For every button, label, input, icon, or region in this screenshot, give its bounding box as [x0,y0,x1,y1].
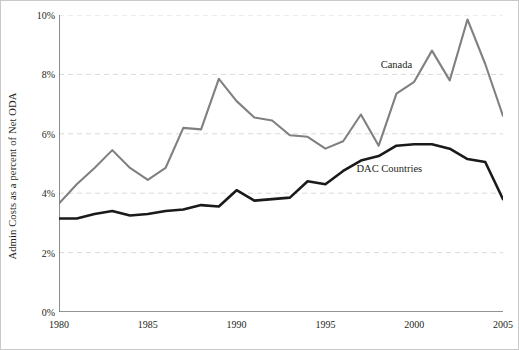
y-tick-label: 2% [11,247,55,258]
y-tick-label: 6% [11,128,55,139]
x-tick-label: 1990 [227,319,247,330]
series-lines [59,19,503,218]
series-label-dac-countries: DAC Countries [357,162,423,173]
y-tick-label: 0% [11,307,55,318]
y-tick-label: 10% [11,10,55,21]
x-tick-label: 1985 [138,319,158,330]
y-tick-label: 8% [11,69,55,80]
series-label-canada: Canada [381,59,413,70]
x-axis-ticks: 198019851990199520002005 [1,319,519,337]
x-tick-label: 1980 [49,319,69,330]
x-tick-label: 2000 [404,319,424,330]
y-tick-label: 4% [11,188,55,199]
x-tick-label: 2005 [493,319,513,330]
gridlines [59,15,503,253]
x-tick-label: 1995 [315,319,335,330]
series-line-dac-countries [59,144,503,218]
plot-area [59,15,503,312]
series-line-canada [59,19,503,203]
chart-svg [59,15,503,312]
y-axis-ticks: 0%2%4%6%8%10% [9,1,55,350]
chart-figure: Admin Costs as a percent of Net ODA 0%2%… [0,0,519,350]
